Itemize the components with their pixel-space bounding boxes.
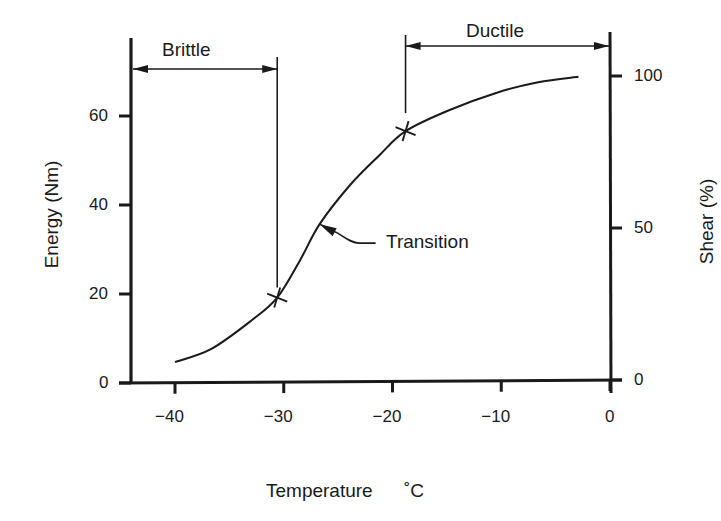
axes (119, 32, 622, 394)
ductile-label: Ductile (466, 21, 524, 40)
annotations (133, 35, 610, 288)
x-tick-label: 0 (605, 408, 614, 425)
x-tick-label: −30 (264, 408, 293, 425)
x-axis-unit: ˚C (404, 480, 424, 501)
x-tick-label: −10 (481, 408, 510, 425)
y-tick-label: 60 (89, 107, 108, 124)
x-tick-label: −40 (155, 408, 184, 425)
y2-axis-title: Shear (%) (697, 162, 716, 282)
x-axis-title: Temperature ˚C (266, 481, 424, 500)
brittle-label: Brittle (162, 40, 211, 59)
x-tick-label: −20 (373, 408, 402, 425)
transition-label: Transition (386, 232, 469, 251)
y-tick-label: 0 (99, 374, 108, 391)
y2-tick-label: 50 (634, 219, 653, 236)
y2-tick-label: 100 (634, 67, 662, 84)
y2-axis-line (610, 32, 611, 393)
ductile-limit-marker (396, 121, 416, 141)
y-tick-label: 40 (89, 196, 108, 213)
y-tick-label: 20 (89, 285, 108, 302)
chart-canvas (0, 0, 721, 521)
y2-tick-label: 0 (634, 371, 643, 388)
x-axis-label: Temperature (266, 480, 373, 501)
x-axis-line (119, 380, 622, 383)
energy-curve-path (175, 77, 578, 362)
energy-curve (175, 77, 578, 362)
y-axis-title: Energy (Nm) (42, 145, 61, 285)
